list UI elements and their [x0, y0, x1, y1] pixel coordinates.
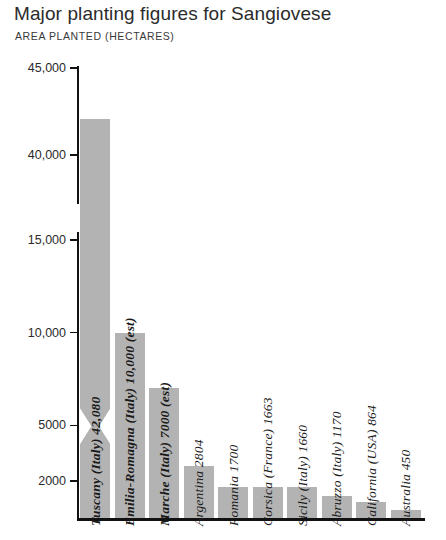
y-tick-mark: [70, 425, 79, 427]
bar-label: Argentina 2804: [191, 439, 207, 526]
y-tick-label: 5000: [38, 418, 66, 432]
bar-label: Abruzzo (Italy) 1170: [329, 411, 345, 526]
bar-label: Emilia-Romagna (Italy) 10,000 (est): [122, 317, 138, 526]
y-tick-label: 15,000: [28, 233, 66, 247]
sangiovese-planting-chart: Major planting figures for Sangiovese AR…: [0, 0, 446, 540]
y-tick-mark: [70, 332, 79, 334]
chart-subtitle: AREA PLANTED (HECTARES): [15, 30, 174, 42]
y-tick-mark: [70, 239, 79, 241]
chart-title: Major planting figures for Sangiovese: [14, 3, 331, 25]
y-tick-label: 2000: [38, 474, 66, 488]
y-tick-label: 45,000: [28, 61, 66, 75]
bar-label: Sicily (Italy) 1660: [295, 425, 311, 526]
bar-label: Romania 1700: [226, 444, 242, 526]
y-tick-label: 40,000: [28, 148, 66, 162]
y-tick-label: 10,000: [28, 326, 66, 340]
bar-label: Tuscany (Italy) 42,080: [88, 396, 104, 526]
y-axis-lower-segment: [77, 232, 79, 520]
bar-label: California (USA) 864: [364, 405, 380, 526]
bar-label: Corsica (France) 1663: [260, 397, 276, 526]
y-tick-mark: [70, 67, 79, 69]
y-tick-mark: [70, 154, 79, 156]
y-tick-mark: [70, 480, 79, 482]
bar-label: Marche (Italy) 7000 (est): [157, 382, 173, 526]
bar-label: Australia 450: [398, 450, 414, 526]
y-axis-upper-segment: [77, 66, 79, 208]
